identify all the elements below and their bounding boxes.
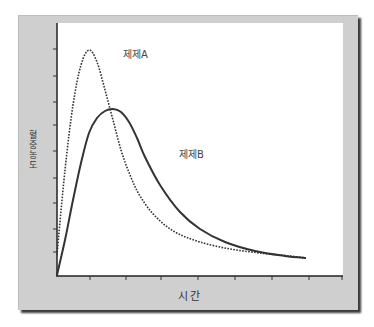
x-axis-label: 시간 bbox=[178, 287, 202, 303]
line-chart bbox=[0, 0, 374, 327]
y-label-char: 농 bbox=[26, 150, 40, 160]
series-b-line bbox=[57, 109, 306, 275]
series-b-label: 제제B bbox=[179, 146, 204, 161]
y-label-char: 혈 bbox=[26, 130, 40, 140]
y-axis-label: 혈 중 농 도 bbox=[26, 130, 40, 170]
series-a-label: 제제A bbox=[123, 46, 148, 61]
y-label-char: 도 bbox=[26, 160, 40, 170]
y-label-char: 중 bbox=[26, 140, 40, 150]
